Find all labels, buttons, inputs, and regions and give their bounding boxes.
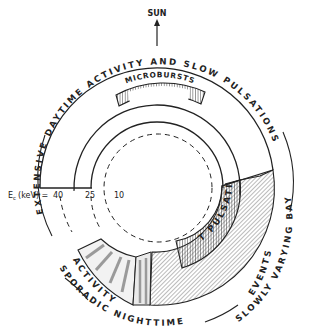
energy-axis: Ec(keV) = 40 25 10 [8, 191, 124, 201]
energy-tick-10: 10 [114, 191, 124, 200]
diagram-canvas: SUN MIC [0, 0, 313, 335]
energy-tick-25: 25 [85, 191, 95, 200]
sun-arrow-head-icon [154, 19, 160, 26]
energy-tick-40: 40 [53, 191, 63, 200]
bay-lower-arc [205, 305, 238, 322]
contour-10kev [104, 134, 212, 242]
energy-axis-label: Ec(keV) = [8, 191, 48, 201]
sun-indicator: SUN [148, 9, 167, 46]
sun-label: SUN [148, 9, 167, 18]
microbursts-band: MICROBURSTS [116, 70, 205, 106]
